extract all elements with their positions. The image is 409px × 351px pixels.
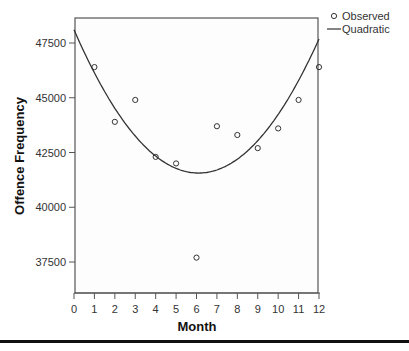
x-tick-label: 0 [71,303,77,315]
legend: Observed Quadratic [327,10,390,35]
x-tick-label: 12 [313,303,325,315]
legend-quadratic-label: Quadratic [342,23,390,35]
y-axis-title: Offence Frequency [12,96,27,215]
x-tick-label: 11 [293,303,304,315]
legend-observed-label: Observed [342,10,390,22]
x-tick-label: 9 [255,303,261,315]
x-axis: 0123456789101112 [71,293,325,315]
x-tick-label: 10 [272,303,284,315]
x-tick-label: 2 [112,303,118,315]
x-tick-label: 4 [153,303,159,315]
y-tick-label: 45000 [35,92,66,104]
y-tick-label: 37500 [35,256,66,268]
x-tick-label: 5 [173,303,179,315]
x-tick-label: 6 [193,303,199,315]
y-tick-label: 42500 [35,147,66,159]
legend-observed-marker-icon [331,13,336,18]
x-tick-label: 8 [234,303,240,315]
y-tick-label: 40000 [35,201,66,213]
y-tick-label: 47500 [35,37,66,49]
x-tick-label: 1 [91,303,97,315]
x-tick-label: 3 [132,303,138,315]
x-axis-title: Month [178,319,217,334]
plot-area [75,18,318,293]
y-axis: 3750040000425004500047500 [35,37,75,268]
x-tick-label: 7 [214,303,220,315]
chart: 3750040000425004500047500 01234567891011… [0,0,409,351]
divider-rule [0,340,409,343]
